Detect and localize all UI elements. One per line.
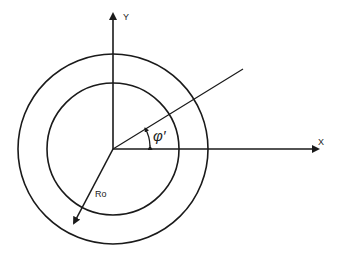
polar-coordinate-diagram: Y X φ′ Ro — [0, 0, 342, 260]
x-axis-label: X — [318, 137, 324, 147]
radius-label: Ro — [95, 189, 107, 199]
angle-label: φ′ — [153, 127, 167, 144]
angle-arc — [145, 128, 150, 146]
y-axis-label: Y — [123, 12, 129, 22]
